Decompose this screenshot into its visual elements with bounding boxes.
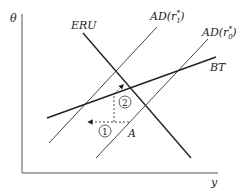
ad-r0-label: AD(r0*) (201, 25, 237, 41)
ad-r1-label: AD(r1*) (149, 9, 185, 25)
eru-label: ERU (70, 19, 97, 32)
bt-label: BT (209, 61, 227, 74)
diagram-canvas: θ y ERU AD(r1*) AD(r0*) BT 1 2 A (0, 0, 245, 191)
eru-line (83, 33, 191, 158)
step1-label: 1 (102, 127, 108, 137)
step2-label: 2 (122, 98, 128, 108)
ad-r0-line (96, 39, 208, 158)
y-axis-label: θ (10, 12, 17, 25)
bt-line (47, 57, 216, 118)
point-a-label: A (127, 127, 136, 140)
x-axis-label: y (210, 176, 218, 189)
